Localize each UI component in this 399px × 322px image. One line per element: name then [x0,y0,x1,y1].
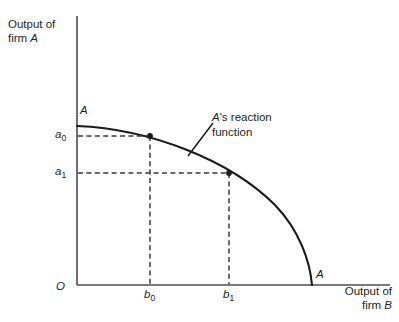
annotation-line1-rest: 's reaction [220,111,272,123]
data-point-b0-a0 [147,133,153,139]
x-axis-title: Output offirm B [318,285,392,312]
y-axis-title: Output offirm A [8,18,55,45]
annotation-leader-line [188,123,213,156]
curve-annotation-label: A's reactionfunction [212,110,272,139]
data-point-b1-a1 [226,170,232,176]
y-axis-title-line2-prefix: firm [8,32,30,44]
curve-top-label: A [80,104,88,118]
curve-end-label: A [316,268,324,282]
y-tick-label-a1-subscript: 1 [61,170,66,180]
y-tick-label-a0: a0 [55,128,66,143]
x-axis-title-line2-prefix: firm [362,299,384,311]
annotation-line2: function [212,126,252,138]
annotation-firm-letter: A [212,111,220,123]
x-tick-label-b1: b1 [223,288,234,303]
origin-label: O [56,280,65,294]
chart-canvas [0,0,399,322]
y-tick-label-a0-subscript: 0 [61,133,66,143]
y-axis-title-firm-letter: A [30,32,38,44]
y-axis-title-line1: Output of [8,18,55,30]
x-tick-label-b1-subscript: 1 [229,293,234,303]
x-tick-label-b0-subscript: 0 [150,293,155,303]
x-axis-title-line1: Output of [345,285,392,297]
y-tick-label-a1: a1 [55,165,66,180]
reaction-function-curve [77,126,312,285]
x-axis-title-firm-letter: B [384,299,392,311]
reaction-function-figure: Output offirm A Output offirm B O A A a0… [0,0,399,322]
x-tick-label-b0: b0 [144,288,155,303]
